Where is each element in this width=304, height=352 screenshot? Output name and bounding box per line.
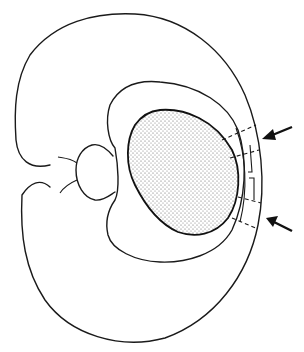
arrow-upper <box>262 127 292 140</box>
diagram-canvas <box>0 0 304 352</box>
hilum-bulb <box>76 145 115 200</box>
diagram-svg <box>0 0 304 352</box>
stippled-core <box>128 110 239 235</box>
hilum-branch-upper <box>58 157 77 163</box>
step-cut <box>248 145 254 200</box>
arrow-lower <box>266 216 292 231</box>
hilum-branch-lower <box>60 180 77 193</box>
